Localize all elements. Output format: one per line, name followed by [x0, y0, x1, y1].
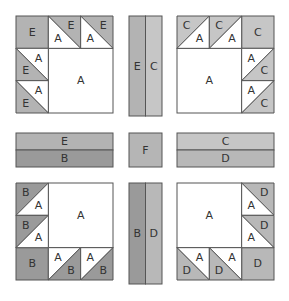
strip-label: E [61, 135, 68, 148]
strip-label: B [61, 152, 69, 165]
right-horizontal-strip: CD [177, 133, 274, 167]
bottom-left-block: ABBABAABAB [16, 183, 113, 280]
triangle-label: C [260, 64, 268, 77]
triangle-label: A [248, 231, 256, 244]
triangle-label: A [248, 199, 256, 212]
triangle-label: A [54, 251, 62, 264]
triangle-label: B [100, 264, 108, 277]
triangle-label: E [67, 19, 74, 32]
bottom-right-block: ADDADAADAD [177, 183, 274, 280]
quilt-diagram: AEEAEAAEAEACCACAACACABBABAABABADDADAADAD… [0, 0, 289, 301]
half-square-triangle: BA [16, 183, 48, 215]
triangle-label: A [248, 52, 256, 65]
triangle-label: E [100, 19, 107, 32]
strip-label: D [150, 227, 158, 240]
center-square: F [129, 133, 162, 167]
triangle-label: B [67, 264, 75, 277]
strip-label: C [222, 135, 230, 148]
triangle-label: A [248, 84, 256, 97]
triangle-label: A [196, 32, 204, 45]
half-square-triangle: AD [177, 248, 209, 280]
strip-label: E [134, 60, 141, 73]
strip-label: C [150, 60, 158, 73]
triangle-label: C [215, 19, 223, 32]
triangle-label: D [182, 264, 190, 277]
large-square-label: A [77, 74, 85, 87]
triangle-label: A [87, 32, 95, 45]
top-vertical-strip: EC [129, 16, 162, 116]
triangle-label: A [228, 251, 236, 264]
triangle-label: A [35, 199, 43, 212]
triangle-label: C [183, 19, 191, 32]
half-square-triangle: AD [209, 248, 241, 280]
half-square-triangle: DA [242, 183, 274, 215]
half-square-triangle: DA [242, 215, 274, 247]
half-square-triangle: CA [177, 16, 209, 48]
large-square-label: A [77, 209, 85, 222]
half-square-triangle: AE [16, 48, 48, 80]
triangle-label: D [260, 186, 268, 199]
triangle-label: D [215, 264, 223, 277]
triangle-label: E [22, 64, 29, 77]
triangle-label: E [22, 97, 29, 110]
triangle-label: A [54, 32, 62, 45]
half-square-triangle: BA [16, 215, 48, 247]
half-square-triangle: EA [81, 16, 113, 48]
triangle-label: A [87, 251, 95, 264]
top-left-block: AEEAEAAEAE [16, 16, 113, 113]
half-square-triangle: CA [209, 16, 241, 48]
corner-square-label: C [254, 26, 262, 39]
triangle-label: C [260, 97, 268, 110]
triangle-label: A [35, 231, 43, 244]
quilt-assembly-svg: AEEAEAAEAEACCACAACACABBABAABABADDADAADAD… [0, 0, 289, 301]
strip-label: B [133, 227, 141, 240]
corner-square-label: D [254, 257, 262, 270]
half-square-triangle: EA [48, 16, 80, 48]
triangle-label: D [260, 219, 268, 232]
triangle-label: B [22, 219, 30, 232]
top-right-block: ACCACAACAC [177, 16, 274, 113]
triangle-label: B [22, 186, 30, 199]
half-square-triangle: AC [242, 48, 274, 80]
strip-label: D [221, 152, 229, 165]
half-square-triangle: AB [48, 248, 80, 280]
strip-label: F [142, 144, 148, 157]
triangle-label: A [228, 32, 236, 45]
half-square-triangle: AE [16, 81, 48, 113]
triangle-label: A [196, 251, 204, 264]
half-square-triangle: AB [81, 248, 113, 280]
large-square-label: A [206, 209, 214, 222]
corner-square-label: E [29, 26, 36, 39]
half-square-triangle: AC [242, 81, 274, 113]
triangle-label: A [35, 84, 43, 97]
left-horizontal-strip: EB [16, 133, 113, 167]
triangle-label: A [35, 52, 43, 65]
large-square-label: A [206, 74, 214, 87]
bottom-vertical-strip: BD [129, 183, 162, 284]
corner-square-label: B [28, 257, 36, 270]
